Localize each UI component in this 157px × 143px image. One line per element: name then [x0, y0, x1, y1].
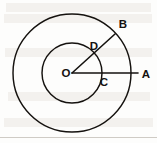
scan-background-artifacts — [0, 3, 157, 138]
label-center-o: O — [62, 67, 71, 79]
label-point-c: C — [100, 76, 108, 88]
ghost-text-band-bottom — [4, 118, 153, 127]
ghost-text-band-upper — [4, 14, 152, 23]
ghost-text-band-middle — [5, 48, 152, 57]
geometry-figure: O A B C D — [0, 0, 157, 143]
concentric-circles-diagram: O A B C D — [0, 0, 157, 143]
ghost-text-band-lower — [8, 92, 150, 101]
label-point-a: A — [142, 68, 150, 80]
label-point-b: B — [119, 18, 127, 30]
label-point-d: D — [90, 40, 98, 52]
ghost-text-band-top — [6, 3, 151, 12]
